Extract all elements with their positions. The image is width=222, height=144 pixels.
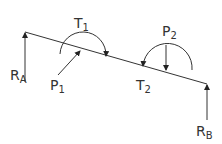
label-p1: P1 [50, 77, 65, 95]
label-rb: RB [196, 123, 213, 141]
beam-diagram: RA T1 P1 T2 P2 RB [0, 0, 222, 144]
moment-t2-arrow [143, 43, 192, 70]
label-t2: T2 [135, 77, 151, 95]
label-t1: T1 [73, 15, 89, 33]
label-p2: P2 [162, 23, 177, 41]
label-ra: RA [10, 67, 27, 85]
force-p1-arrow [58, 51, 80, 75]
